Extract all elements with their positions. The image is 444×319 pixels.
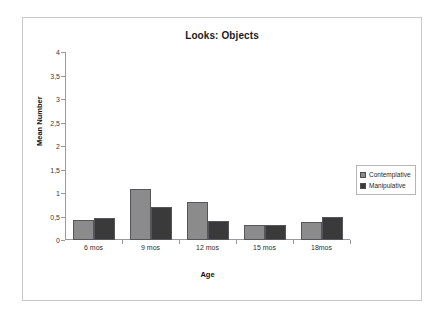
bar xyxy=(208,221,229,240)
legend-label: Manipulative xyxy=(369,182,406,189)
y-axis-tick-label: 1 xyxy=(56,190,60,197)
y-axis-tick-label: 0,5 xyxy=(50,213,60,220)
y-axis-tick-mark xyxy=(61,76,65,77)
y-axis-tick-label: 0 xyxy=(56,237,60,244)
bar xyxy=(130,189,151,240)
y-axis-tick-label: 2 xyxy=(56,143,60,150)
y-axis-tick-mark xyxy=(61,123,65,124)
legend-item-manipulative: Manipulative xyxy=(360,180,411,191)
y-axis-title: Mean Number xyxy=(35,96,44,146)
bar xyxy=(244,225,265,241)
chart-legend: Contemplative Manipulative xyxy=(356,165,416,195)
x-axis-category-label: 9 mos xyxy=(122,244,179,251)
y-axis-tick-label: 1,5 xyxy=(50,166,60,173)
y-axis-tick-mark xyxy=(61,170,65,171)
y-axis-tick-mark xyxy=(61,240,65,241)
bar-group xyxy=(301,52,343,240)
y-axis-tick-mark xyxy=(61,193,65,194)
x-axis-category-label: 12 mos xyxy=(179,244,236,251)
bar-group xyxy=(130,52,172,240)
y-axis-line xyxy=(65,52,66,240)
x-axis-tick-mark xyxy=(350,240,351,244)
bar xyxy=(151,207,172,240)
plot-area: 43,532,521,510,50 6 mos9 mos12 mos15 mos… xyxy=(65,52,350,240)
y-axis-tick-label: 2,5 xyxy=(50,119,60,126)
bar xyxy=(265,225,286,241)
x-axis-category-label: 15 mos xyxy=(236,244,293,251)
y-axis-tick-mark xyxy=(61,52,65,53)
bar-group xyxy=(187,52,229,240)
y-axis-tick-label: 3 xyxy=(56,96,60,103)
bar xyxy=(187,202,208,240)
bar xyxy=(73,220,94,240)
y-axis-tick-label: 3,5 xyxy=(50,72,60,79)
bar xyxy=(301,222,322,240)
y-axis-tick-label: 4 xyxy=(56,49,60,56)
bar-group xyxy=(244,52,286,240)
x-axis-category-label: 6 mos xyxy=(65,244,122,251)
x-axis-category-label: 18mos xyxy=(293,244,350,251)
bar xyxy=(94,218,115,240)
y-axis-tick-mark xyxy=(61,146,65,147)
legend-swatch-icon xyxy=(360,183,366,189)
legend-label: Contemplative xyxy=(369,171,411,178)
legend-swatch-icon xyxy=(360,172,366,178)
chart-frame: Looks: Objects Mean Number 43,532,521,51… xyxy=(22,17,422,301)
legend-item-contemplative: Contemplative xyxy=(360,169,411,180)
y-axis-tick-mark xyxy=(61,99,65,100)
chart-title: Looks: Objects xyxy=(23,30,421,41)
x-axis-title: Age xyxy=(65,270,350,279)
bar xyxy=(322,217,343,241)
bar-group xyxy=(73,52,115,240)
y-axis-tick-mark xyxy=(61,217,65,218)
